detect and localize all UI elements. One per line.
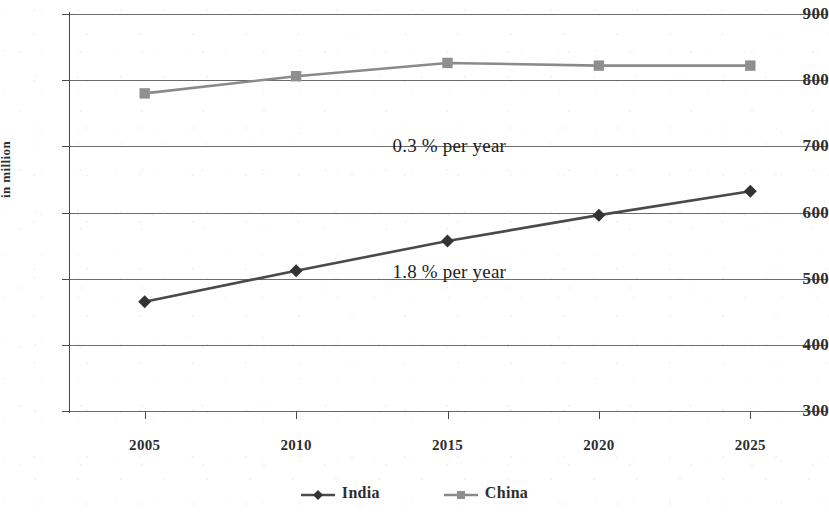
diamond-marker-icon [744, 185, 757, 198]
y-tick-label: 700 [777, 136, 829, 156]
x-tick-mark [296, 411, 297, 419]
gridline [69, 80, 826, 81]
square-marker-icon [140, 88, 150, 98]
gridline [69, 345, 826, 346]
y-tick-mark [62, 14, 70, 15]
x-tick-label: 2025 [705, 437, 795, 454]
x-tick-label: 2020 [554, 437, 644, 454]
x-tick-mark [750, 411, 751, 419]
y-tick-mark [62, 80, 70, 81]
diamond-marker-icon [592, 209, 605, 222]
legend-label-india: India [342, 484, 380, 502]
y-tick-label: 800 [777, 70, 829, 90]
gridline [69, 213, 826, 214]
x-tick-label: 2015 [403, 437, 493, 454]
x-tick-mark [448, 411, 449, 419]
y-axis-title: in million [0, 141, 14, 198]
square-marker-icon [745, 60, 755, 70]
series-line-china [145, 63, 751, 93]
diamond-marker-icon [138, 295, 151, 308]
y-tick-label: 400 [777, 335, 829, 355]
y-tick-label: 300 [777, 401, 829, 421]
legend-entry-china[interactable]: China [444, 484, 528, 502]
square-marker-icon [442, 58, 452, 68]
x-tick-mark [145, 411, 146, 419]
diamond-marker-icon [290, 264, 303, 277]
y-tick-mark [62, 146, 70, 147]
annotation-china-growth-rate: 0.3 % per year [393, 135, 507, 157]
legend-entry-india[interactable]: India [301, 484, 380, 502]
chart-legend: India China [0, 484, 829, 502]
square-marker-icon [444, 487, 478, 499]
x-tick-label: 2005 [100, 437, 190, 454]
annotation-india-growth-rate: 1.8 % per year [393, 261, 507, 283]
y-tick-mark [62, 411, 70, 412]
y-tick-label: 500 [777, 269, 829, 289]
line-chart: in million 900800700600500400300 2005201… [0, 0, 829, 516]
gridline [69, 14, 826, 15]
square-marker-icon [594, 60, 604, 70]
x-tick-label: 2010 [251, 437, 341, 454]
y-tick-mark [62, 279, 70, 280]
x-tick-mark [599, 411, 600, 419]
diamond-marker-icon [441, 234, 454, 247]
series-line-india [145, 191, 751, 301]
legend-label-china: China [485, 484, 528, 502]
y-tick-mark [62, 213, 70, 214]
y-tick-label: 600 [777, 203, 829, 223]
diamond-marker-icon [301, 487, 335, 499]
y-tick-mark [62, 345, 70, 346]
y-tick-label: 900 [777, 4, 829, 24]
